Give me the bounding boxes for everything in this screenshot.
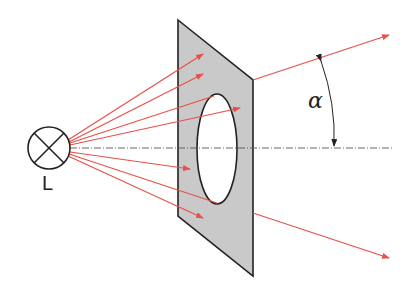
lamp-label: L: [42, 172, 53, 195]
diagram-canvas: [0, 0, 411, 294]
angle-label: α: [308, 88, 323, 113]
lamp-icon: [28, 127, 70, 169]
